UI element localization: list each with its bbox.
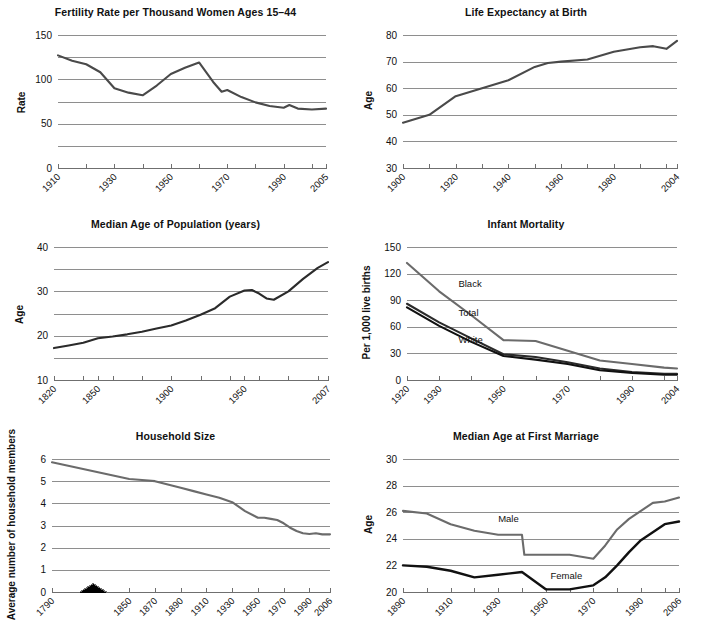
y-tick-label: 150 [384,242,401,253]
chart-svg-infant-mortality: 0306090120150192019301950197019902004Bla… [351,212,701,424]
y-tick-label: 30 [386,454,398,465]
y-tick-label: 70 [386,56,398,67]
x-tick-label: 1900 [153,383,176,406]
chart-svg-median-age-population: 1020304018201850190019502007 [0,212,351,424]
series-line-black [407,263,677,369]
y-tick-label: 0 [40,587,46,598]
y-tick-label: 22 [386,560,398,571]
panel-household-size: Household Size 0123456179018501870189019… [0,424,351,636]
x-tick-label: 1820 [36,383,59,406]
chart-svg-fertility: 050100150191019301950197019902005 [0,0,351,212]
x-tick-label: 2007 [310,383,333,406]
x-tick-label: 1920 [437,171,460,194]
x-tick-label: 1850 [111,595,134,618]
y-tick-label: 20 [386,587,398,598]
y-tick-label: 0 [46,163,52,174]
series-line-life-expectancy [403,41,677,123]
x-tick-label: 1870 [137,595,160,618]
x-tick-label: 1980 [595,171,618,194]
x-tick-label: 1920 [389,383,412,406]
figure-grid: Fertility Rate per Thousand Women Ages 1… [0,0,701,636]
y-tick-label: 4 [40,498,46,509]
panel-median-age-population: Median Age of Population (years) 1020304… [0,212,351,424]
x-tick-label: 1850 [80,383,103,406]
x-tick-label: 1990 [614,383,637,406]
x-tick-label: 1890 [162,595,185,618]
x-tick-label: 1900 [385,171,408,194]
x-tick-label: 1950 [527,595,550,618]
x-tick-label: 2004 [659,171,682,194]
series-label-white: White [458,334,482,345]
x-tick-label: 1940 [490,171,513,194]
series-line-median-age [54,262,328,348]
panel-life-expectancy: Life Expectancy at Birth 304050607080190… [351,0,701,212]
x-tick-label: 2005 [308,171,331,194]
y-tick-label: 1 [40,564,46,575]
x-tick-label: 1930 [421,383,444,406]
y-tick-label: 20 [37,330,49,341]
x-tick-label: 1970 [549,383,572,406]
x-tick-label: 1890 [385,595,408,618]
x-tick-label: 1930 [480,595,503,618]
series-label-male: Male [498,513,519,524]
panel-median-age-first-marriage: Median Age at First Marriage 20222426283… [351,424,701,636]
y-tick-label: 0 [395,375,401,386]
x-tick-label: 2006 [661,595,684,618]
x-tick-label: 1950 [153,171,176,194]
x-tick-label: 1990 [265,171,288,194]
chart-svg-life-expectancy: 304050607080190019201940196019802004 [351,0,701,212]
x-tick-label: 1910 [40,171,63,194]
y-tick-label: 10 [37,375,49,386]
y-tick-label: 120 [384,268,401,279]
x-tick-label: 1990 [623,595,646,618]
y-tick-label: 30 [390,348,402,359]
y-tick-label: 28 [386,480,398,491]
y-tick-label: 60 [386,83,398,94]
x-tick-label: 1930 [96,171,119,194]
y-tick-label: 6 [40,454,46,465]
y-axis-label: Rate [16,91,27,113]
chart-svg-household-size: 0123456179018501870189019101930195019701… [0,424,351,636]
x-tick-label: 1970 [265,595,288,618]
x-tick-label: 1950 [240,595,263,618]
y-tick-label: 30 [37,286,49,297]
y-tick-label: 90 [390,295,402,306]
y-tick-label: 50 [386,109,398,120]
chart-svg-median-age-first-marriage: 2022242628301890191019301950197019902006… [351,424,701,636]
series-label-female: Female [551,570,583,581]
series-line-male [403,498,679,559]
y-tick-label: 26 [386,507,398,518]
panel-fertility: Fertility Rate per Thousand Women Ages 1… [0,0,351,212]
y-tick-label: 40 [386,136,398,147]
panel-infant-mortality: Infant Mortality 03060901201501920193019… [351,212,701,424]
x-tick-label: 2004 [659,383,682,406]
y-tick-label: 80 [386,30,398,41]
y-tick-label: 30 [386,163,398,174]
series-label-black: Black [458,278,481,289]
series-line-total [407,304,677,374]
y-axis-label: Age [363,515,374,534]
x-tick-label: 1790 [34,595,57,618]
x-tick-label: 1990 [291,595,314,618]
x-tick-label: 1930 [214,595,237,618]
x-tick-label: 1960 [543,171,566,194]
y-tick-label: 100 [35,74,52,85]
y-axis-label: Average number of household members [6,428,17,619]
y-tick-label: 150 [35,30,52,41]
y-tick-label: 5 [40,476,46,487]
y-tick-label: 50 [41,118,53,129]
y-tick-label: 3 [40,520,46,531]
x-tick-label: 1950 [226,383,249,406]
x-tick-label: 1910 [188,595,211,618]
x-tick-label: 1970 [209,171,232,194]
y-axis-label: Age [14,305,25,324]
y-tick-label: 24 [386,533,398,544]
y-tick-label: 40 [37,242,49,253]
x-tick-label: 1910 [432,595,455,618]
series-line-fertility-rate [58,55,326,109]
series-label-total: Total [458,307,478,318]
y-axis-label: Per 1,000 live births [361,265,372,359]
y-tick-label: 60 [390,321,402,332]
x-tick-label: 2006 [312,595,335,618]
x-tick-label: 1950 [485,383,508,406]
